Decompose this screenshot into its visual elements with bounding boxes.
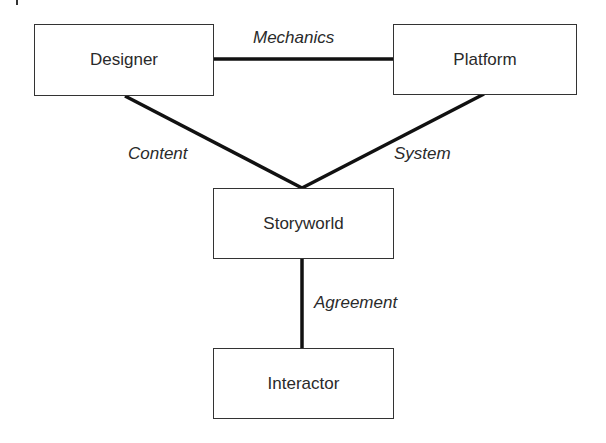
- node-storyworld: Storyworld: [213, 188, 394, 259]
- node-interactor-label: Interactor: [268, 374, 340, 394]
- story-diagram: Designer Platform Storyworld Interactor …: [0, 0, 606, 443]
- edge-label-content: Content: [128, 144, 188, 164]
- edge-label-system: System: [394, 144, 451, 164]
- node-platform: Platform: [393, 24, 577, 95]
- node-storyworld-label: Storyworld: [263, 214, 343, 234]
- node-platform-label: Platform: [453, 50, 516, 70]
- edge-content: [125, 96, 302, 188]
- node-designer-label: Designer: [90, 50, 158, 70]
- edge-system: [302, 94, 484, 188]
- edge-label-agreement: Agreement: [314, 293, 397, 313]
- node-interactor: Interactor: [213, 348, 394, 419]
- edge-label-mechanics: Mechanics: [253, 28, 334, 48]
- node-designer: Designer: [34, 24, 214, 96]
